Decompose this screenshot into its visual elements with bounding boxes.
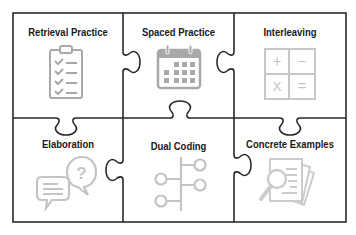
col-divider-2-bottom xyxy=(234,118,251,222)
document-magnifier-icon xyxy=(258,157,322,215)
row-divider-left xyxy=(13,118,123,135)
row-divider-right xyxy=(234,118,346,135)
col-divider-1-bottom xyxy=(106,118,123,222)
piece-dual-coding-label: Dual Coding xyxy=(131,140,226,152)
equals-symbol: = xyxy=(290,75,314,98)
minus-symbol: − xyxy=(290,50,314,75)
speech-bubbles-question-icon: ? xyxy=(36,155,98,213)
math-operators-grid-icon: + − X = xyxy=(264,48,316,100)
times-symbol: X xyxy=(266,75,290,98)
calendar-icon xyxy=(156,44,202,90)
piece-concrete-examples-label: Concrete Examples xyxy=(242,138,338,150)
row-divider-middle xyxy=(123,101,234,118)
piece-elaboration-label: Elaboration xyxy=(21,138,116,150)
node-branch-icon xyxy=(150,155,212,213)
piece-interleaving-label: Interleaving xyxy=(242,26,338,38)
question-mark: ? xyxy=(76,164,86,183)
piece-spaced-practice-label: Spaced Practice xyxy=(131,26,226,38)
clipboard-checklist-icon xyxy=(48,44,84,100)
piece-retrieval-practice-label: Retrieval Practice xyxy=(21,26,116,38)
plus-symbol: + xyxy=(266,50,290,75)
